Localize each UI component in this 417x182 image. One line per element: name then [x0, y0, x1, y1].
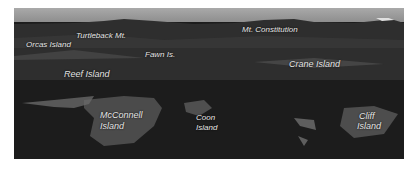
label-mcconnell-island-line2: Island — [100, 122, 124, 131]
island-aerial-photo: Orcas Island Turtleback Mt. Fawn Is. Mt.… — [14, 8, 404, 159]
label-mt-constitution: Mt. Constitution — [242, 26, 298, 34]
label-reef-island: Reef Island — [64, 70, 110, 79]
label-coon-island-line1: Coon — [196, 114, 215, 122]
label-mcconnell-island-line1: McConnell — [100, 111, 143, 120]
label-turtleback-mt: Turtleback Mt. — [76, 32, 126, 40]
label-cliff-island-line2: Island — [357, 122, 381, 131]
label-fawn-is: Fawn Is. — [145, 51, 175, 59]
label-orcas-island: Orcas Island — [26, 41, 71, 49]
label-crane-island: Crane Island — [289, 60, 340, 69]
islands — [14, 8, 404, 159]
label-coon-island-line2: Island — [196, 124, 217, 132]
